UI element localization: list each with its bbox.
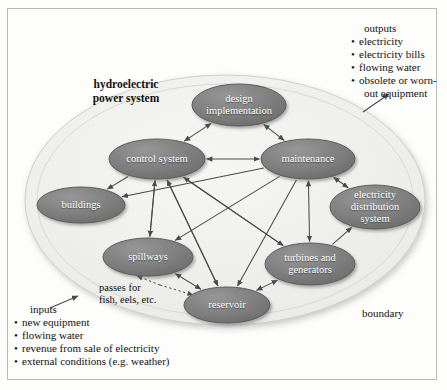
- inputs-item: new equipment: [14, 316, 264, 329]
- inputs-heading: inputs: [30, 303, 264, 316]
- fish-pass-line-1: passes for: [99, 282, 141, 293]
- inputs-item: flowing water: [14, 329, 264, 342]
- node-control[interactable]: [109, 139, 205, 179]
- inputs-annotation: inputs new equipment flowing water reven…: [14, 303, 264, 368]
- outputs-item-text: obsolete or worn-: [359, 74, 437, 86]
- outputs-annotation: outputs electricity electricity bills fl…: [351, 22, 447, 100]
- diagram-stage: hydroelectric power system boundary pass…: [0, 0, 447, 390]
- inputs-item: external conditions (e.g. weather): [14, 355, 264, 368]
- node-maintenance[interactable]: [261, 139, 355, 179]
- outputs-item: obsolete or worn-out equipment: [351, 74, 447, 100]
- outputs-heading: outputs: [364, 22, 447, 35]
- node-design[interactable]: [192, 84, 286, 126]
- outputs-list: electricity electricity bills flowing wa…: [351, 35, 447, 100]
- outputs-item: flowing water: [351, 61, 447, 74]
- node-buildings[interactable]: [37, 187, 125, 223]
- inputs-list: new equipment flowing water revenue from…: [14, 316, 264, 368]
- node-turbines[interactable]: [265, 243, 355, 285]
- node-spillways[interactable]: [103, 238, 193, 276]
- inputs-item: revenue from sale of electricity: [14, 342, 264, 355]
- node-distribution[interactable]: [330, 185, 420, 229]
- outputs-item-continuation: out equipment: [359, 87, 447, 100]
- outputs-item: electricity: [351, 35, 447, 48]
- system-name-label: hydroelectric power system: [78, 78, 174, 105]
- outputs-item: electricity bills: [351, 48, 447, 61]
- boundary-label: boundary: [362, 307, 404, 320]
